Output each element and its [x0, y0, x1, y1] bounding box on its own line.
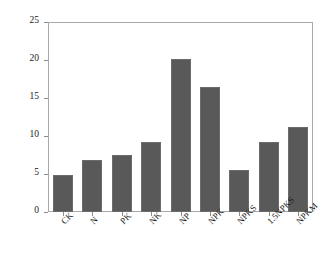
y-tick-mark [44, 136, 48, 137]
chart-figure: 固碳效率 (CSE)/% 0510152025 CKNPKNKNPNPKNPKS… [0, 0, 324, 263]
bar [53, 175, 73, 212]
y-tick-mark [44, 212, 48, 213]
bar [259, 142, 279, 212]
y-tick: 20 [0, 60, 48, 61]
y-tick-label: 5 [34, 167, 39, 177]
bar [200, 87, 220, 212]
y-tick-mark [44, 98, 48, 99]
y-tick: 0 [0, 212, 48, 213]
bar [141, 142, 161, 212]
y-tick-mark [44, 60, 48, 61]
y-tick-label: 25 [30, 15, 40, 25]
bar [171, 59, 191, 212]
y-tick: 10 [0, 136, 48, 137]
x-tick-label: N [88, 214, 100, 226]
x-tick-label: CK [59, 210, 75, 226]
y-tick-label: 15 [30, 91, 40, 101]
x-tick-label: PK [118, 211, 133, 226]
bar [112, 155, 132, 212]
y-tick-label: 20 [30, 53, 40, 63]
y-tick-mark [44, 22, 48, 23]
y-tick: 25 [0, 22, 48, 23]
y-tick: 5 [0, 174, 48, 175]
x-tick-label: NP [177, 211, 192, 226]
bar [82, 160, 102, 212]
x-tick-label: NK [147, 210, 163, 226]
plot-area [48, 22, 313, 212]
y-tick: 15 [0, 98, 48, 99]
y-tick-mark [44, 174, 48, 175]
y-tick-label: 10 [30, 129, 40, 139]
y-tick-label: 0 [34, 205, 39, 215]
